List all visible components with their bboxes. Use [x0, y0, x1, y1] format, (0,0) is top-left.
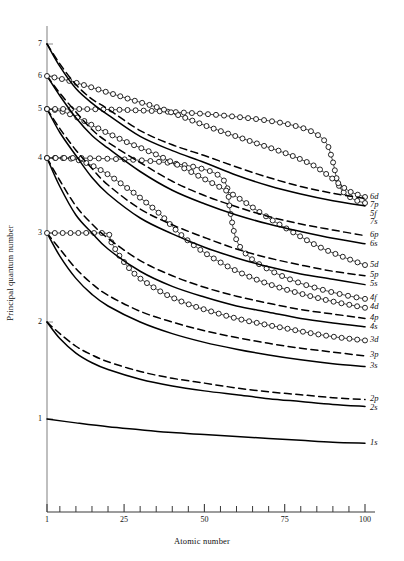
series-4s — [47, 158, 365, 327]
series-label-6s: 6s — [370, 239, 378, 248]
series-label-2s: 2s — [370, 403, 378, 412]
series-label-4s: 4s — [370, 322, 378, 331]
series-3p — [47, 233, 365, 356]
y-axis-title-text: Principal quantum number — [5, 153, 15, 393]
series-label-7s: 7s — [370, 217, 378, 226]
series-label-3p: 3p — [370, 350, 379, 359]
x-tick-50: 50 — [190, 515, 218, 524]
y-tick-4: 4 — [30, 153, 42, 162]
y-tick-3: 3 — [30, 228, 42, 237]
series-label-1s: 1s — [370, 438, 378, 447]
series-label-3d: 3d — [370, 335, 379, 344]
x-tick-100: 100 — [351, 515, 379, 524]
y-tick-2: 2 — [30, 317, 42, 326]
y-tick-1: 1 — [30, 414, 42, 423]
series-label-4d: 4d — [370, 302, 379, 311]
x-tick-1: 1 — [33, 515, 61, 524]
series-layer — [45, 44, 368, 443]
orbital-energy-plot — [0, 0, 404, 561]
series-label-5d: 5d — [370, 260, 379, 269]
y-tick-7: 7 — [30, 39, 42, 48]
series-label-3s: 3s — [370, 361, 378, 370]
series-7p — [47, 44, 365, 199]
x-tick-25: 25 — [110, 515, 138, 524]
axes-layer — [47, 26, 375, 512]
y-axis-title: Principal quantum number — [0, 0, 14, 561]
chart-figure: Atomic number Principal quantum number 1… — [0, 0, 404, 561]
y-tick-6: 6 — [30, 71, 42, 80]
x-axis-title: Atomic number — [0, 536, 404, 546]
series-label-5s: 5s — [370, 279, 378, 288]
x-tick-75: 75 — [271, 515, 299, 524]
series-1s — [47, 419, 365, 443]
y-tick-5: 5 — [30, 104, 42, 113]
